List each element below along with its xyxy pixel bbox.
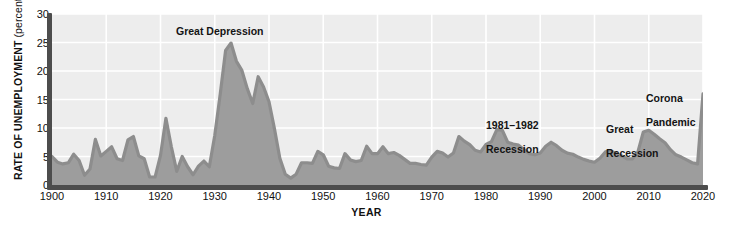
y-axis-tick-labels: 302520151050 (25, 0, 49, 190)
annotation-corona-pandemic: Corona Pandemic (646, 80, 696, 140)
x-axis-title: YEAR (0, 206, 733, 218)
x-axis-tick-label: 1930 (190, 190, 240, 202)
x-axis-tick-label: 2020 (678, 190, 728, 202)
x-axis-tick-label: 2000 (570, 190, 620, 202)
annotation-great-recession-line2: Recession (606, 147, 659, 159)
y-axis-tick-label: 10 (27, 123, 49, 133)
y-axis-tick-label: 5 (27, 152, 49, 162)
y-axis-tick-label: 15 (27, 95, 49, 105)
x-axis-tick-label: 1980 (461, 190, 511, 202)
x-axis-tick-label: 2010 (624, 190, 674, 202)
x-axis-tick-label: 1970 (407, 190, 457, 202)
annotation-1981-1982-line2: Recession (486, 143, 539, 155)
annotation-corona-line1: Corona (646, 92, 696, 104)
annotation-great-depression: Great Depression (176, 25, 264, 37)
y-axis-title-unit (12, 37, 24, 40)
y-axis-title: RATE OF UNEMPLOYMENT (percent) (12, 0, 24, 180)
annotation-1981-1982-line1: 1981–1982 (486, 119, 539, 131)
y-axis-title-main: RATE OF UNEMPLOYMENT (12, 41, 24, 180)
unemployment-rate-chart: RATE OF UNEMPLOYMENT (percent) 302520151… (0, 0, 733, 232)
x-axis-tick-label: 1950 (298, 190, 348, 202)
x-axis-tick-label: 1920 (136, 190, 186, 202)
x-axis-tick-label: 1940 (244, 190, 294, 202)
y-axis-tick-label: 30 (27, 9, 49, 19)
y-axis-tick-label: 25 (27, 38, 49, 48)
x-axis-tick-labels: 1900191019201930194019501960197019801990… (0, 190, 733, 206)
x-axis-tick-label: 1960 (353, 190, 403, 202)
y-axis-title-unit-text: (percent) (12, 0, 24, 37)
y-axis-tick-label: 0 (27, 180, 49, 190)
annotation-1981-1982-recession: 1981–1982 Recession (486, 107, 539, 167)
x-axis-tick-label: 1990 (515, 190, 565, 202)
annotation-corona-line2: Pandemic (646, 116, 696, 128)
x-axis-tick-label: 1900 (27, 190, 77, 202)
x-axis-tick-label: 1910 (81, 190, 131, 202)
y-axis-tick-label: 20 (27, 66, 49, 76)
